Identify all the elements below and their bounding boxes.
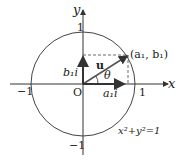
tick-pos-y: 1 bbox=[77, 22, 84, 33]
tick-neg-y: −1 bbox=[69, 140, 85, 151]
y-axis-label: y bbox=[73, 3, 80, 16]
tick-pos-x: 1 bbox=[139, 87, 146, 98]
unit-circle-diagram: y 1 (a₁, b₁) u θ b₁i x −1 O a₁i 1 x²+y²=… bbox=[0, 0, 178, 161]
point-label: (a₁, b₁) bbox=[130, 49, 168, 60]
angle-label: θ bbox=[104, 70, 111, 81]
y-component-label: b₁i bbox=[63, 67, 78, 78]
x-component-label: a₁i bbox=[103, 88, 118, 99]
angle-arc bbox=[96, 76, 98, 84]
x-axis-label: x bbox=[168, 77, 175, 90]
origin-label: O bbox=[73, 87, 82, 98]
circle-equation: x²+y²=1 bbox=[118, 126, 160, 136]
vector-u-label: u bbox=[96, 60, 104, 71]
tick-neg-x: −1 bbox=[17, 86, 33, 97]
diagram-graphics bbox=[0, 0, 178, 161]
